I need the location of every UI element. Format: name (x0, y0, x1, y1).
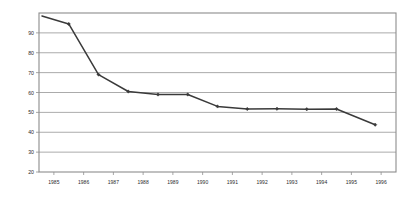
x-axis-label: 1989 (167, 179, 178, 185)
chart-background (0, 0, 417, 199)
x-axis-label: 1987 (108, 179, 119, 185)
x-axis-label: 1992 (257, 179, 268, 185)
x-axis-label: 1995 (346, 179, 357, 185)
y-axis-label: 20 (28, 169, 34, 175)
chart-canvas: 9080706050403020 19851986198719881989199… (0, 0, 417, 199)
x-axis-label: 1985 (48, 179, 59, 185)
y-axis-label: 60 (28, 90, 34, 96)
x-axis-label: 1991 (227, 179, 238, 185)
y-axis-label: 30 (28, 149, 34, 155)
y-axis-label: 80 (28, 50, 34, 56)
x-axis-label: 1993 (286, 179, 297, 185)
x-axis-label: 1994 (316, 179, 327, 185)
y-axis-label: 50 (28, 109, 34, 115)
y-axis-label: 90 (28, 30, 34, 36)
x-axis-label: 1988 (138, 179, 149, 185)
y-axis-label: 40 (28, 129, 34, 135)
y-axis-label: 70 (28, 70, 34, 76)
x-axis-label: 1990 (197, 179, 208, 185)
x-axis-label: 1986 (78, 179, 89, 185)
x-axis-label: 1996 (376, 179, 387, 185)
line-chart: 9080706050403020 19851986198719881989199… (0, 0, 417, 199)
